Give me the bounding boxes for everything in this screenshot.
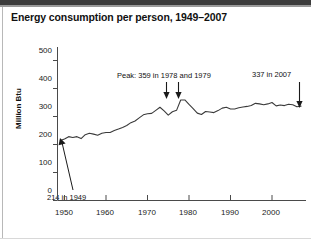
peak-arrow-2-icon (175, 82, 181, 99)
peak-arrow-1-icon (163, 82, 169, 99)
chart-vector-layer (0, 0, 311, 239)
data-series-line (60, 100, 301, 141)
chart-page: Energy consumption per person, 1949–2007… (0, 0, 311, 239)
plot-area: Million Btu 0 100 200 300 400 500 1950 1… (0, 0, 311, 239)
first-point-arrow-icon (59, 138, 73, 190)
x-axis-ticks (65, 195, 273, 201)
last-point-arrow-icon (296, 82, 302, 108)
y-axis-ticks (53, 61, 58, 201)
